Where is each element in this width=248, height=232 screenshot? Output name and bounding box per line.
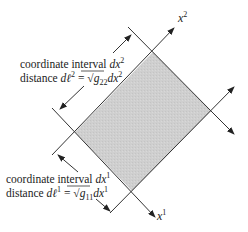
dx2-distance-label: distance dℓ2 = √g22dx2 xyxy=(20,70,122,87)
dx1-arrow-lower xyxy=(96,199,110,211)
x2-axis-label: x2 xyxy=(177,10,187,25)
arrow-line-right-lower xyxy=(211,111,234,134)
dx2-arrow-upper xyxy=(113,35,131,53)
dx2-arrow-lower xyxy=(60,86,84,109)
x1-axis-label: x1 xyxy=(156,208,166,223)
dx2-coordinate-interval-label: coordinate interval dx2 xyxy=(20,56,124,70)
dx1-distance-label: distance dℓ1 = √g11dx1 xyxy=(6,185,108,202)
dx1-coordinate-interval-label: coordinate interval dx1 xyxy=(6,171,110,185)
dx1-arrow-upper xyxy=(58,155,78,172)
coordinate-cell-diagram: x2 x1 coordinate interval dx2 distance d… xyxy=(0,0,248,232)
